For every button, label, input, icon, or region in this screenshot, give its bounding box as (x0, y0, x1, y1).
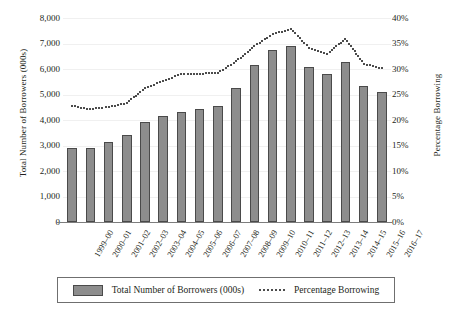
line-dot (142, 89, 144, 91)
line-dot (92, 108, 94, 110)
legend-line-label: Percentage Borrowing (294, 285, 379, 295)
line-dot (272, 33, 274, 35)
chart-legend: Total Number of Borrowers (000s) Percent… (57, 277, 395, 303)
line-dot (375, 66, 377, 68)
line-dot (320, 51, 322, 53)
bar (250, 65, 259, 222)
bar (286, 46, 295, 222)
line-dot (180, 73, 182, 75)
line-dot (86, 108, 88, 110)
y-tick-right: 30% (392, 65, 430, 74)
y-tick-right: 10% (392, 167, 430, 176)
line-dot (227, 65, 229, 67)
bar (322, 74, 331, 222)
line-dot (340, 42, 342, 44)
y-tick-right: 35% (392, 39, 430, 48)
y-tick-right: 5% (392, 192, 430, 201)
line-dot (323, 52, 325, 54)
line-dot (259, 42, 261, 44)
line-dot (162, 80, 164, 82)
line-dot (199, 73, 201, 75)
line-dot (202, 73, 204, 75)
line-dot (83, 107, 85, 109)
bar (377, 92, 386, 222)
line-dot (294, 32, 296, 34)
plot-area (63, 18, 391, 222)
line-dot (333, 47, 335, 49)
line-dot (235, 60, 237, 62)
line-dot (126, 102, 128, 104)
borrowers-chart: Total Number of Borrowers (000s) Percent… (0, 0, 450, 314)
line-dot (284, 30, 286, 32)
line-dot (193, 73, 195, 75)
line-dot (150, 85, 152, 87)
line-dot (249, 49, 251, 51)
y-tick-left: 0 (24, 218, 60, 227)
line-dot (183, 73, 185, 75)
bar (195, 109, 204, 222)
line-dot (338, 43, 340, 45)
bar (359, 86, 368, 222)
line-dot (177, 74, 179, 76)
bar (104, 142, 113, 222)
y-tick-left: 7,000 (24, 39, 60, 48)
line-dot (214, 72, 216, 74)
y-tick-right: 0% (392, 218, 430, 227)
line-dot (222, 69, 224, 71)
line-dot (105, 106, 107, 108)
line-dot (287, 29, 289, 31)
line-dot (165, 79, 167, 81)
bar (268, 50, 277, 222)
line-dot (256, 43, 258, 45)
line-dot (123, 103, 125, 105)
line-dot (369, 64, 371, 66)
line-dot (217, 72, 219, 74)
line-dot (168, 78, 170, 80)
line-dot (251, 47, 253, 49)
bar (304, 67, 313, 222)
y-axis-right-title: Percentage Borrowing (432, 30, 442, 200)
line-dot (299, 37, 301, 39)
line-dot (314, 49, 316, 51)
gridline (63, 18, 391, 19)
line-dot (311, 48, 313, 50)
bar (213, 106, 222, 222)
line-dot (171, 77, 173, 79)
line-dot (269, 35, 271, 37)
line-dot (114, 105, 116, 107)
line-dot (101, 107, 103, 109)
line-dot (205, 72, 207, 74)
bar (231, 88, 240, 222)
y-tick-left: 1,000 (24, 192, 60, 201)
bar (86, 148, 95, 222)
line-dot (144, 87, 146, 89)
line-dot (326, 53, 328, 55)
x-axis-origin-tick (57, 222, 63, 223)
y-tick-left: 6,000 (24, 65, 60, 74)
line-dot (190, 73, 192, 75)
line-dot (366, 64, 368, 66)
line-dot (77, 106, 79, 108)
line-dot (281, 31, 283, 33)
line-dot (363, 63, 365, 65)
line-dot (108, 106, 110, 108)
line-dot (159, 81, 161, 83)
line-dot (139, 91, 141, 93)
line-dot (266, 37, 268, 39)
line-dot (329, 51, 331, 53)
line-dot (219, 70, 221, 72)
line-dot (317, 50, 319, 52)
bar (177, 112, 186, 222)
legend-bar-label: Total Number of Borrowers (000s) (112, 285, 244, 295)
line-dot (187, 73, 189, 75)
y-tick-left: 4,000 (24, 116, 60, 125)
bar (122, 135, 131, 222)
line-dot (308, 47, 310, 49)
bar (140, 122, 149, 222)
line-dot (240, 57, 242, 59)
line-dot (225, 67, 227, 69)
line-dot (74, 105, 76, 107)
line-dot (153, 84, 155, 86)
gridline (63, 44, 391, 45)
line-dot (261, 40, 263, 42)
